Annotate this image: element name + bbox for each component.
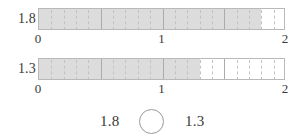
minor-tick bbox=[237, 60, 238, 80]
minor-tick bbox=[249, 60, 250, 80]
axis-tick-label: 0 bbox=[35, 31, 42, 47]
comparison-right-value: 1.3 bbox=[185, 110, 205, 132]
axis-tick-label: 0 bbox=[35, 81, 42, 97]
minor-tick bbox=[261, 60, 262, 80]
empty-circle-icon[interactable] bbox=[139, 109, 164, 134]
row-2-bar-wrapper bbox=[38, 58, 285, 80]
row-1-value-label: 1.8 bbox=[6, 10, 36, 28]
comparison-left-value: 1.8 bbox=[100, 110, 120, 132]
row-2-bar[interactable] bbox=[38, 58, 285, 80]
row-2-value-label: 1.3 bbox=[6, 60, 36, 78]
axis-tick-label: 2 bbox=[282, 81, 289, 97]
minor-tick bbox=[200, 60, 201, 80]
row-1-axis: 012 bbox=[38, 31, 285, 47]
minor-tick bbox=[212, 60, 213, 80]
comparison-prompt: 1.8 1.3 bbox=[0, 104, 301, 137]
major-tick bbox=[224, 59, 225, 80]
row-1-bar[interactable] bbox=[38, 8, 285, 30]
minor-tick bbox=[261, 10, 262, 30]
row-2-bar-fill bbox=[39, 59, 200, 79]
axis-tick-label: 2 bbox=[282, 31, 289, 47]
axis-tick-label: 1 bbox=[158, 81, 165, 97]
worksheet-canvas: 1.8 012 1.3 012 1.8 1.3 bbox=[0, 0, 301, 137]
row-1-bar-wrapper bbox=[38, 8, 285, 30]
axis-tick-label: 1 bbox=[158, 31, 165, 47]
minor-tick bbox=[274, 10, 275, 30]
row-1-bar-fill bbox=[39, 9, 261, 29]
row-2-axis: 012 bbox=[38, 81, 285, 97]
minor-tick bbox=[274, 60, 275, 80]
